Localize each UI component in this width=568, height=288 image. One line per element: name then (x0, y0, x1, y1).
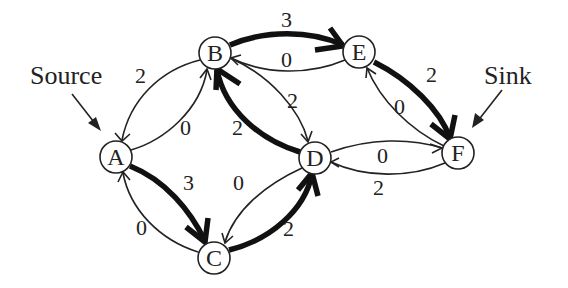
svg-text:2: 2 (373, 175, 384, 200)
svg-text:3: 3 (281, 7, 292, 32)
edge-B-E: 3 (230, 7, 343, 50)
svg-text:0: 0 (377, 143, 388, 168)
source-arrow-icon (72, 94, 101, 131)
svg-text:3: 3 (183, 170, 194, 195)
sink-arrow-icon (472, 90, 502, 128)
node-B: B (199, 37, 231, 69)
svg-text:0: 0 (180, 115, 191, 140)
svg-text:2: 2 (283, 216, 294, 241)
node-E: E (343, 36, 375, 68)
sink-callout: Sink (472, 61, 532, 128)
node-A: A (100, 141, 132, 173)
flow-network-diagram: Source Sink 2 0 3 0 3 (0, 0, 568, 288)
sink-label: Sink (484, 61, 532, 90)
source-label: Source (30, 61, 102, 90)
node-C: C (198, 242, 230, 274)
edge-F-D: 2 (331, 158, 445, 200)
edge-D-F: 0 (331, 141, 442, 168)
svg-text:2: 2 (287, 88, 298, 113)
svg-text:B: B (207, 40, 223, 66)
svg-text:2: 2 (232, 115, 243, 140)
svg-text:E: E (352, 39, 367, 65)
svg-text:0: 0 (394, 94, 405, 119)
svg-text:0: 0 (136, 215, 147, 240)
source-callout: Source (30, 61, 102, 131)
svg-text:0: 0 (233, 170, 244, 195)
node-D: D (299, 142, 331, 174)
svg-text:2: 2 (426, 62, 437, 87)
svg-text:A: A (107, 144, 125, 170)
svg-text:C: C (206, 245, 222, 271)
node-F: F (442, 137, 474, 169)
svg-text:0: 0 (281, 47, 292, 72)
svg-text:D: D (306, 145, 323, 171)
svg-text:2: 2 (135, 63, 146, 88)
svg-text:F: F (451, 140, 464, 166)
